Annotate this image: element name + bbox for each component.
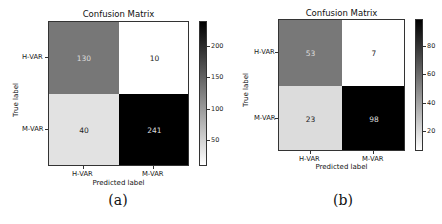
cbtick-mark: [207, 109, 210, 110]
cbtick-label: 50: [211, 136, 219, 144]
cbtick-mark: [207, 77, 210, 78]
cbtick-label: 20: [427, 127, 435, 135]
ytick-mark: [45, 129, 48, 130]
chart-title-a: Confusion Matrix: [48, 9, 189, 19]
xtick-label-a-mvar: M-VAR: [142, 170, 164, 178]
xtick-mark: [153, 166, 154, 169]
cbtick-mark: [207, 46, 210, 47]
cell-b-mvar-hvar: 23: [279, 86, 342, 151]
plot-area-a: 130 10 40 241: [48, 21, 189, 166]
cbtick-label: 40: [427, 99, 435, 107]
cbtick-mark: [207, 140, 210, 141]
ytick-label-a-hvar: H-VAR: [22, 53, 43, 61]
cbtick-label: 200: [211, 42, 223, 50]
cell-value: 53: [306, 49, 316, 58]
cell-a-hvar-hvar: 130: [49, 22, 119, 94]
ytick-label-a-mvar: M-VAR: [22, 125, 44, 133]
xtick-mark: [83, 166, 84, 169]
ytick-label-b-hvar: H-VAR: [254, 48, 275, 56]
cell-value: 40: [79, 126, 89, 135]
xtick-label-b-hvar: H-VAR: [299, 155, 320, 163]
ytick-label-b-mvar: M-VAR: [254, 114, 276, 122]
cbtick-label: 150: [211, 73, 223, 81]
cbtick-mark: [423, 46, 426, 47]
cbtick-label: 60: [427, 70, 435, 78]
xlabel-b: Predicted label: [278, 163, 405, 171]
xtick-label-a-hvar: H-VAR: [72, 170, 93, 178]
colorbar-b: [415, 19, 423, 151]
cell-value: 7: [372, 49, 377, 58]
colorbar-a: [199, 21, 207, 166]
xtick-mark: [310, 151, 311, 154]
caption-b: (b): [323, 192, 363, 208]
cell-a-mvar-mvar: 241: [119, 94, 189, 166]
cell-a-hvar-mvar: 10: [119, 22, 189, 94]
cbtick-label: 80: [427, 42, 435, 50]
ylabel-a: True label: [12, 80, 20, 120]
xtick-mark: [373, 151, 374, 154]
xtick-label-b-mvar: M-VAR: [362, 155, 384, 163]
cbtick-mark: [423, 131, 426, 132]
caption-a: (a): [98, 192, 138, 208]
ylabel-b: True label: [242, 70, 250, 110]
plot-area-b: 53 7 23 98: [278, 19, 405, 151]
cell-value: 130: [77, 54, 91, 63]
cbtick-mark: [423, 103, 426, 104]
cbtick-mark: [423, 74, 426, 75]
cell-b-hvar-mvar: 7: [342, 20, 405, 86]
cell-value: 98: [369, 115, 379, 124]
cell-value: 23: [306, 115, 316, 124]
xlabel-a: Predicted label: [48, 179, 189, 187]
cell-b-mvar-mvar: 98: [342, 86, 405, 151]
chart-title-b: Confusion Matrix: [278, 8, 405, 18]
cell-b-hvar-hvar: 53: [279, 20, 342, 86]
ytick-mark: [275, 52, 278, 53]
cell-value: 10: [150, 54, 160, 63]
ytick-mark: [45, 57, 48, 58]
cell-value: 241: [147, 126, 161, 135]
cell-a-mvar-hvar: 40: [49, 94, 119, 166]
cbtick-label: 100: [211, 105, 223, 113]
